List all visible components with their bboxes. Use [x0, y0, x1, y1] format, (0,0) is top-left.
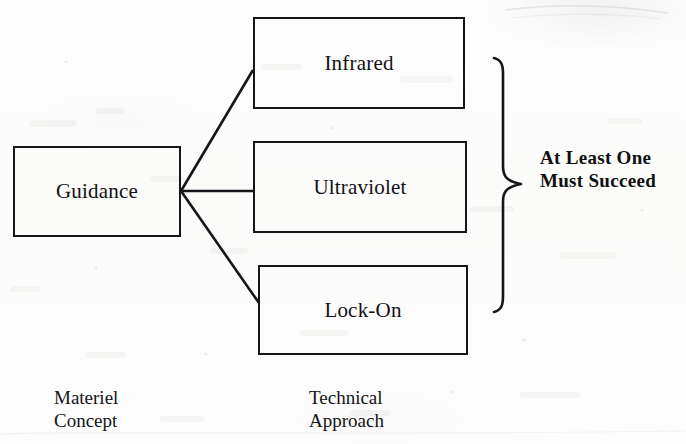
node-infrared[interactable]: Infrared	[253, 17, 465, 109]
node-lockon[interactable]: Lock-On	[258, 265, 468, 355]
diagram-canvas: Guidance Infrared Ultraviolet Lock-On At…	[0, 0, 686, 444]
node-ultraviolet[interactable]: Ultraviolet	[253, 141, 467, 233]
right-curly-brace-icon	[494, 58, 521, 312]
edge-guidance-infrared	[181, 70, 253, 191]
caption-materiel-concept: Materiel Concept	[54, 386, 118, 432]
node-lockon-label: Lock-On	[324, 298, 401, 323]
node-guidance-label: Guidance	[56, 179, 138, 204]
brace-caption: At Least One Must Succeed	[540, 146, 656, 192]
caption-technical-approach: Technical Approach	[309, 386, 384, 432]
node-guidance[interactable]: Guidance	[13, 146, 181, 237]
node-ultraviolet-label: Ultraviolet	[313, 175, 406, 200]
edge-guidance-lockon	[181, 191, 259, 303]
node-infrared-label: Infrared	[324, 51, 393, 76]
